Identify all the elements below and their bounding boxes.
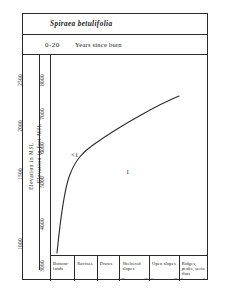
- x-subtick-right: sw: [174, 277, 178, 281]
- x-subtick-right: sw: [144, 277, 148, 281]
- x-category-sheltered-slopes: Sheltered slopes sw sw: [120, 256, 150, 281]
- y-tick-outer-1500: 1500: [17, 154, 23, 194]
- x-axis-categories: Bottom-lands Ravines Draws Sheltered slo…: [51, 255, 207, 281]
- y-tick-outer-2500: 2500: [17, 60, 23, 100]
- x-category-bottom-lands: Bottom-lands: [51, 256, 75, 281]
- y-tick-inner-5000: 5000: [39, 162, 45, 202]
- title-band: Spiraea betulifolia: [23, 14, 207, 35]
- annotation-one: 1: [126, 168, 130, 175]
- figure-page: Spiraea betulifolia 0-20 Years since bur…: [0, 0, 226, 300]
- x-category-ravines: Ravines: [75, 256, 98, 281]
- species-name: Spiraea betulifolia: [50, 19, 112, 28]
- y-tick-outer-1000: 1000: [17, 224, 23, 264]
- x-category-draws: Draws: [98, 256, 121, 281]
- x-category-label: Ridges, peaks, serio flats: [182, 261, 206, 277]
- x-subtick-left: se: [181, 277, 184, 281]
- plot-zone: Elevation in MSL 2500 2000 1500 1000 Ele…: [23, 55, 207, 281]
- annotation-less-than-one: <1: [71, 151, 79, 158]
- x-category-label: Sheltered slopes: [122, 261, 148, 271]
- y-tick-outer-2000: 2000: [17, 106, 23, 146]
- burn-band: 0-20 Years since burn: [23, 35, 207, 55]
- y-tick-inner-4000: 4000: [39, 204, 45, 244]
- figure-frame: Spiraea betulifolia 0-20 Years since bur…: [22, 13, 208, 280]
- x-category-ridges-peaks: Ridges, peaks, serio flats se se: [180, 256, 207, 281]
- x-category-label: Open slopes: [152, 261, 178, 266]
- x-subtick-left: se: [151, 277, 154, 281]
- x-category-label: Bottom-lands: [53, 261, 73, 271]
- x-subtick-left: sw: [121, 277, 125, 281]
- burn-range-label: Years since burn: [75, 41, 122, 48]
- x-subtick-right: se: [203, 277, 206, 281]
- x-category-label: Ravines: [77, 261, 96, 266]
- y-axis-title-outer: Elevation in MSL: [28, 118, 34, 214]
- y-tick-inner-3000: 3000: [39, 246, 45, 286]
- x-category-label: Draws: [100, 261, 119, 266]
- burn-range-value: 0-20: [45, 41, 60, 49]
- x-category-open-slopes: Open slopes se sw: [150, 256, 180, 281]
